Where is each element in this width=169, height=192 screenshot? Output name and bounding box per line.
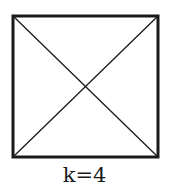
diagram-label: k=4 <box>0 163 169 187</box>
